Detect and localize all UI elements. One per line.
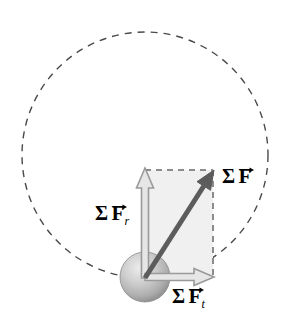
label-sum-f-r-symbol-wrap: F [112,203,125,224]
label-sum-f-r-letter: F [112,201,125,225]
label-sum-f-t-subscript: t [201,297,204,311]
label-sum-f-t-letter: F [189,284,202,308]
label-sum-f-sigma: Σ [222,165,236,187]
label-sum-f: Σ F [222,166,251,187]
label-sum-f-r-sigma: Σ [95,202,109,224]
diagram-canvas [0,0,292,326]
label-sum-f-symbol-wrap: F [239,166,252,187]
label-sum-f-t-sigma: Σ [172,285,186,307]
label-sum-f-letter: F [239,164,252,188]
label-sum-f-t-symbol-wrap: F [189,286,202,307]
label-sum-f-r: Σ Fr [95,203,129,224]
label-sum-f-t: Σ Ft [172,286,205,307]
label-sum-f-r-subscript: r [124,214,129,228]
physics-force-diagram: Σ F Σ Fr Σ Ft [0,0,292,326]
